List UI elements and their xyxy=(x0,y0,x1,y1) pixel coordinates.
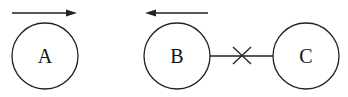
node-b-label: B xyxy=(170,45,183,67)
node-a: A xyxy=(12,23,78,89)
node-a-label: A xyxy=(38,45,53,67)
arrow-left-icon xyxy=(145,10,208,17)
arrow-right-icon xyxy=(12,10,77,17)
node-c: C xyxy=(273,23,339,89)
node-c-label: C xyxy=(299,45,312,67)
diagram: A B C xyxy=(0,0,348,97)
edge-b-c xyxy=(210,47,273,64)
node-b: B xyxy=(144,23,210,89)
